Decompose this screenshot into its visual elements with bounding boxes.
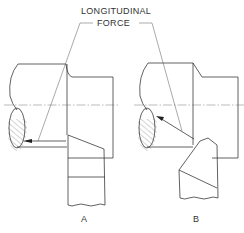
callout-line-1: LONGITUDINAL bbox=[81, 6, 151, 16]
section-a-hatch bbox=[8, 119, 28, 161]
arrowhead-b-icon bbox=[156, 116, 164, 121]
leader-line-a bbox=[38, 23, 80, 141]
force-arrow-b bbox=[160, 118, 194, 139]
tool-b-shank-line bbox=[179, 170, 217, 188]
caption-b: B bbox=[193, 214, 199, 224]
view-a: A bbox=[4, 23, 120, 224]
lathe-force-diagram: LONGITUDINAL FORCE A bbox=[0, 0, 244, 233]
callout-label: LONGITUDINAL FORCE bbox=[81, 6, 151, 28]
workpiece-b-outline bbox=[140, 63, 193, 110]
workpiece-a-outline bbox=[10, 64, 66, 110]
section-b-hatch bbox=[138, 119, 158, 161]
callout-line-2: FORCE bbox=[97, 18, 130, 28]
view-b: B bbox=[134, 23, 244, 224]
workpiece-a-step bbox=[66, 64, 113, 158]
caption-a: A bbox=[81, 214, 87, 224]
leader-line-b bbox=[152, 23, 182, 131]
tool-bit-a bbox=[68, 135, 105, 206]
